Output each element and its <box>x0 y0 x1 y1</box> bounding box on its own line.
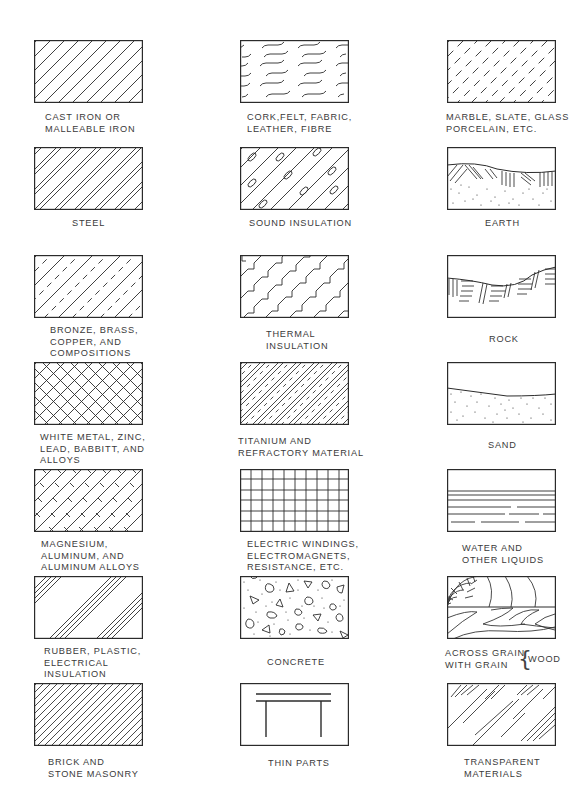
electric-windings-grid-icon <box>240 469 349 532</box>
cork-wavy-icon <box>240 40 349 103</box>
water-icon <box>447 469 556 532</box>
thermal-insulation-icon <box>240 255 349 318</box>
marble-hatch-icon <box>447 40 556 103</box>
electric-windings-label: ELECTRIC WINDINGS, ELECTROMAGNETS, RESIS… <box>247 539 359 574</box>
steel-label: STEEL <box>72 218 105 230</box>
brick-hatch-icon <box>34 683 143 746</box>
steel-hatch-icon <box>34 147 143 210</box>
rock-label: ROCK <box>489 334 519 346</box>
brick-label: BRICK AND STONE MASONRY <box>48 757 139 780</box>
transparent-streaks-icon <box>447 683 556 746</box>
cork-label: CORK,FELT, FABRIC, LEATHER, FIBRE <box>247 112 352 135</box>
rubber-label: RUBBER, PLASTIC, ELECTRICAL INSULATION <box>44 646 141 681</box>
magnesium-hatch-icon <box>34 469 143 532</box>
bronze-label: BRONZE, BRASS, COPPER, AND COMPOSITIONS <box>50 325 138 360</box>
earth-label: EARTH <box>485 218 520 230</box>
magnesium-label: MAGNESIUM, ALUMINUM, AND ALUMINUM ALLOYS <box>41 539 140 574</box>
cast-iron-label: CAST IRON OR MALLEABLE IRON <box>45 112 135 135</box>
white-metal-crosshatch-icon <box>34 362 143 425</box>
cast-iron-hatch-icon <box>34 40 143 103</box>
thermal-insulation-label: THERMAL INSULATION <box>266 329 328 352</box>
wood-label: WOOD <box>528 654 561 666</box>
thin-parts-icon <box>240 683 349 746</box>
rock-icon <box>447 255 556 318</box>
water-label: WATER AND OTHER LIQUIDS <box>462 543 544 566</box>
sound-insulation-icon <box>240 147 349 210</box>
titanium-hatch-icon <box>240 362 349 425</box>
titanium-label: TITANIUM AND REFRACTORY MATERIAL <box>238 436 364 459</box>
earth-icon <box>447 147 556 210</box>
bronze-hatch-icon <box>34 255 143 318</box>
sand-label: SAND <box>488 440 517 452</box>
thin-parts-label: THIN PARTS <box>268 758 330 770</box>
concrete-label: CONCRETE <box>267 657 325 669</box>
rubber-hatch-icon <box>34 576 143 639</box>
concrete-aggregate-icon <box>240 576 349 639</box>
sand-icon <box>447 362 556 425</box>
wood-grain-icon <box>447 576 556 639</box>
wood-grain-labels: ACROSS GRAIN WITH GRAIN <box>445 648 525 671</box>
marble-label: MARBLE, SLATE, GLASS PORCELAIN, ETC. <box>446 112 569 135</box>
transparent-label: TRANSPARENT MATERIALS <box>464 757 541 780</box>
white-metal-label: WHITE METAL, ZINC, LEAD, BABBITT, AND AL… <box>40 432 146 467</box>
sound-insulation-label: SOUND INSULATION <box>249 218 352 230</box>
